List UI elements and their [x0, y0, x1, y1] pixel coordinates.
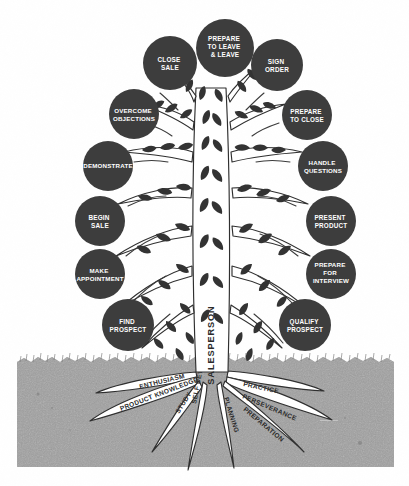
node-prepare-to-leave[interactable]: PREPARE TO LEAVE & LEAVE — [196, 19, 254, 77]
node-find-prospect[interactable]: FIND PROSPECT — [102, 299, 154, 351]
node-label-handle-questions: HANDLE QUESTIONS — [304, 159, 342, 174]
node-label-qualify-prospect: QUALIFY PROSPECT — [287, 318, 323, 333]
node-label-present-product: PRESENT PRODUCT — [314, 214, 347, 229]
node-present-product[interactable]: PRESENT PRODUCT — [306, 196, 356, 246]
node-label-prepare-to-leave: PREPARE TO LEAVE & LEAVE — [208, 35, 243, 58]
node-label-demonstrate: DEMONSTRATE — [83, 162, 133, 169]
node-qualify-prospect[interactable]: QUALIFY PROSPECT — [279, 299, 331, 351]
diagram-canvas: ENTHUSIASM PRODUCT KNOWLEDGE STUDY SELF … — [0, 0, 409, 486]
node-label-overcome-objections: OVERCOME OBJECTIONS — [113, 107, 155, 122]
node-label-begin-sale: BEGIN SALE — [88, 214, 111, 229]
node-begin-sale[interactable]: BEGIN SALE — [75, 196, 125, 246]
node-demonstrate[interactable]: DEMONSTRATE — [83, 141, 133, 191]
node-make-appointment[interactable]: MAKE APPOINTMENT — [75, 249, 125, 299]
node-prepare-to-close[interactable]: PREPARE TO CLOSE — [282, 90, 332, 140]
node-label-close-sale: CLOSE SALE — [158, 56, 183, 71]
node-sign-order[interactable]: SIGN ORDER — [251, 39, 303, 91]
node-handle-questions[interactable]: HANDLE QUESTIONS — [298, 141, 348, 191]
node-label-sign-order: SIGN ORDER — [265, 58, 289, 73]
node-close-sale[interactable]: CLOSE SALE — [143, 36, 197, 90]
node-overcome-objections[interactable]: OVERCOME OBJECTIONS — [109, 89, 159, 139]
node-label-prepare-to-close: PREPARE TO CLOSE — [290, 108, 324, 123]
node-prepare-for-interview[interactable]: PREPARE FOR INTERVIEW — [306, 249, 356, 299]
sales-tree-diagram: ENTHUSIASM PRODUCT KNOWLEDGE STUDY SELF … — [0, 0, 409, 486]
